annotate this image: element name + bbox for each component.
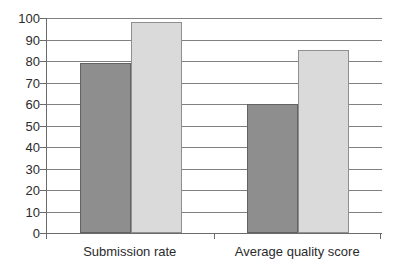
y-axis-tick-label: 20 <box>26 184 40 197</box>
y-axis-tick-label: 90 <box>26 33 40 46</box>
y-axis-tick-label: 40 <box>26 141 40 154</box>
x-axis-tick-mark <box>380 233 381 239</box>
y-axis-tick-label: 60 <box>26 98 40 111</box>
plot-area <box>46 18 382 234</box>
gridline <box>47 40 382 41</box>
y-axis-tick-label: 30 <box>26 162 40 175</box>
bar <box>247 104 298 233</box>
x-axis-category-label: Average quality score <box>235 244 360 259</box>
bar <box>80 63 131 233</box>
y-axis-tick-labels: 0102030405060708090100 <box>0 18 40 233</box>
x-axis-category-label: Submission rate <box>83 244 176 259</box>
gridline <box>47 18 382 19</box>
y-axis-tick-label: 80 <box>26 55 40 68</box>
y-axis-tick-label: 0 <box>33 227 40 240</box>
bar <box>131 22 182 233</box>
x-axis: Submission rateAverage quality score <box>46 233 381 270</box>
x-axis-tick-mark <box>214 233 215 239</box>
y-axis-tick-label: 100 <box>18 12 40 25</box>
bar-chart: 0102030405060708090100 Submission rateAv… <box>0 0 402 270</box>
x-axis-tick-mark <box>46 233 47 239</box>
y-axis-tick-label: 10 <box>26 205 40 218</box>
y-axis-tick-label: 50 <box>26 119 40 132</box>
bar <box>298 50 349 233</box>
y-axis-tick-label: 70 <box>26 76 40 89</box>
